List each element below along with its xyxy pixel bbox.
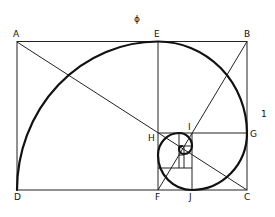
point-E-label: E bbox=[154, 29, 160, 39]
point-H-label: H bbox=[148, 133, 155, 143]
one-label: 1 bbox=[261, 109, 267, 119]
point-A-label: A bbox=[13, 29, 20, 39]
phi-label: ϕ bbox=[134, 14, 140, 24]
golden-spiral-diagram: ϕ 1 A B C D E F G H I J bbox=[0, 0, 275, 217]
diagonal-BF bbox=[158, 42, 247, 191]
diagonal-AC bbox=[17, 42, 247, 190]
point-J-label: J bbox=[188, 192, 192, 202]
point-C-label: C bbox=[244, 192, 250, 202]
point-D-label: D bbox=[14, 192, 21, 202]
point-F-label: F bbox=[155, 192, 160, 202]
point-I-label: I bbox=[188, 122, 191, 132]
point-G-label: G bbox=[250, 129, 257, 139]
point-B-label: B bbox=[244, 29, 250, 39]
